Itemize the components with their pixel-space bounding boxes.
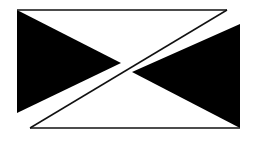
- diagram-canvas: [0, 0, 254, 141]
- geometric-figure: [0, 0, 254, 141]
